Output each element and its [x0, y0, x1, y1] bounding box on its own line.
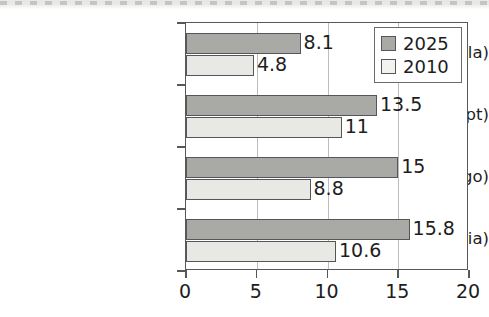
- x-axis-tick-5: [256, 270, 258, 278]
- scan-artifact-band: [0, 0, 489, 9]
- legend-item-2010[interactable]: 2010: [381, 55, 461, 78]
- bar-2025-lagos: [186, 219, 410, 240]
- legend-label-2010: 2010: [403, 58, 449, 76]
- x-axis-tick-20: [468, 270, 470, 278]
- bar-2025-luanda: [186, 33, 301, 54]
- x-axis-label-15: 15: [377, 280, 417, 302]
- value-label-2025-luanda: 8.1: [304, 33, 334, 52]
- bar-2010-cairo: [186, 117, 342, 138]
- legend-swatch-2025-icon: [381, 36, 396, 51]
- bar-2025-cairo: [186, 95, 377, 116]
- x-axis-label-20: 20: [448, 280, 488, 302]
- bar-2025-kinshasa: [186, 157, 398, 178]
- chart-page: Luanda (Angola)Cairo (Egypt)Kinshasa (Co…: [0, 0, 489, 317]
- legend-box: 2025 2010: [374, 27, 462, 83]
- value-label-2010-kinshasa: 8.8: [314, 179, 344, 198]
- bar-2010-luanda: [186, 55, 254, 76]
- x-axis-tick-0: [185, 270, 187, 278]
- bar-2010-kinshasa: [186, 179, 311, 200]
- x-axis-label-10: 10: [307, 280, 347, 302]
- value-label-2010-lagos: 10.6: [339, 241, 381, 260]
- x-axis-tick-15: [397, 270, 399, 278]
- legend-swatch-2010-icon: [381, 59, 396, 74]
- x-axis-label-5: 5: [236, 280, 276, 302]
- value-label-2025-lagos: 15.8: [413, 219, 455, 238]
- value-label-2010-luanda: 4.8: [257, 55, 287, 74]
- value-label-2025-cairo: 13.5: [380, 95, 422, 114]
- x-axis-label-0: 0: [165, 280, 205, 302]
- x-axis-tick-10: [327, 270, 329, 278]
- bar-2010-lagos: [186, 241, 336, 262]
- value-label-2025-kinshasa: 15: [401, 157, 425, 176]
- legend-label-2025: 2025: [403, 35, 449, 53]
- legend-item-2025[interactable]: 2025: [381, 32, 461, 55]
- value-label-2010-cairo: 11: [345, 117, 369, 136]
